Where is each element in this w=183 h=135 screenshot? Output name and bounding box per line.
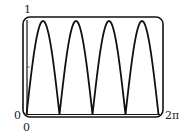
curve-abs-sin-2x xyxy=(27,21,159,115)
y-min-label: 0 xyxy=(14,109,21,122)
plot-figure: 1 0 0 2π xyxy=(0,0,183,135)
plot-frame xyxy=(23,17,163,117)
x-max-label: 2π xyxy=(165,109,179,122)
x-min-label: 0 xyxy=(23,121,30,134)
y-max-label: 1 xyxy=(24,3,31,16)
